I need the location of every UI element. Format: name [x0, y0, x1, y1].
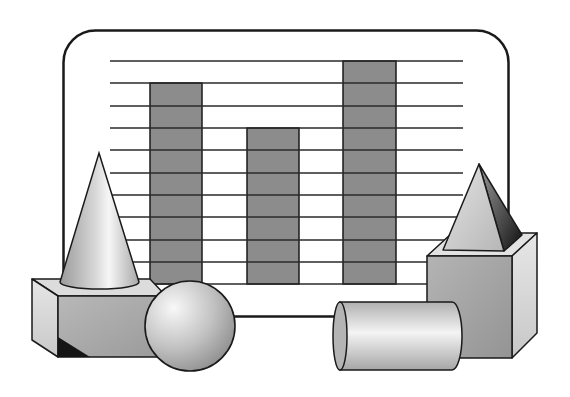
sphere-shape — [145, 281, 235, 371]
clipart-scene — [0, 0, 570, 397]
cylinder-end-cap — [333, 302, 347, 370]
bar-2 — [247, 128, 299, 284]
bar-1 — [150, 83, 202, 284]
cylinder-shape — [333, 302, 462, 370]
right-cube-side — [512, 233, 537, 358]
